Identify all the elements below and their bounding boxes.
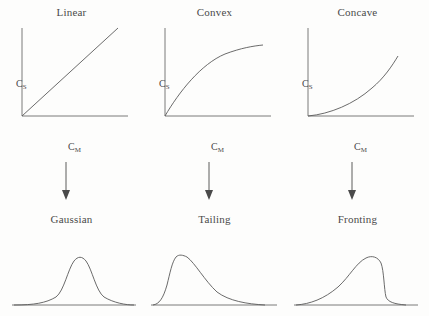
curve-gaussian: [14, 257, 134, 305]
curve-concave: [308, 56, 398, 116]
x-axis-label-linear: CM: [68, 141, 81, 154]
panel-title-gaussian: Gaussian: [0, 213, 143, 225]
x-axis-label-convex: CM: [211, 141, 224, 154]
peak-panel-gaussian: Gaussian: [0, 205, 143, 316]
peak-panel-fronting: Fronting: [286, 205, 429, 316]
panel-title-concave: Concave: [286, 6, 429, 18]
panel-title-fronting: Fronting: [286, 213, 429, 225]
isotherm-panel-convex: Convex CS CM: [143, 0, 286, 160]
curve-linear: [22, 28, 118, 116]
isotherm-panel-linear: Linear CS CM: [0, 0, 143, 160]
y-axis-label-concave: CS: [302, 78, 313, 91]
curve-tailing: [153, 255, 265, 305]
arrow-concave-to-fronting: [286, 160, 429, 205]
panel-title-tailing: Tailing: [143, 213, 286, 225]
curve-convex: [165, 45, 263, 116]
arrow-head-icon: [348, 190, 356, 200]
y-axis-label-convex: CS: [159, 78, 170, 91]
arrow-head-icon: [205, 190, 213, 200]
isotherm-peak-shape-figure: Linear CS CM Convex CS CM Concave CS CM: [0, 0, 429, 316]
curve-fronting: [296, 257, 406, 305]
y-axis-label-linear: CS: [16, 78, 27, 91]
panel-title-convex: Convex: [143, 6, 286, 18]
x-axis-label-concave: CM: [354, 141, 367, 154]
peak-panel-tailing: Tailing: [143, 205, 286, 316]
isotherm-panel-concave: Concave CS CM: [286, 0, 429, 160]
arrow-linear-to-gaussian: [0, 160, 143, 205]
arrow-convex-to-tailing: [143, 160, 286, 205]
panel-title-linear: Linear: [0, 6, 143, 18]
arrow-head-icon: [62, 190, 70, 200]
